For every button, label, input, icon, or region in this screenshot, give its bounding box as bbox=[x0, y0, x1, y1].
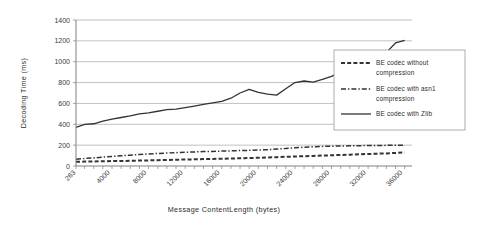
x-tick-label: 263 bbox=[63, 169, 76, 182]
x-tick-label: 36000 bbox=[385, 169, 404, 188]
series-line-2 bbox=[76, 145, 405, 159]
x-tick-label: 32000 bbox=[348, 169, 367, 188]
x-tick-label: 24000 bbox=[275, 169, 294, 188]
legend-label-1: BE codec without bbox=[376, 59, 429, 66]
y-tick-label: 1000 bbox=[54, 58, 70, 65]
y-axis-tick-labels: 0200400600800100012001400 bbox=[54, 17, 70, 170]
x-tick-label: 28000 bbox=[312, 169, 331, 188]
y-tick-label: 0 bbox=[66, 163, 70, 170]
y-tick-label: 1200 bbox=[54, 37, 70, 44]
x-axis-title: Message ContentLength (bytes) bbox=[168, 205, 280, 214]
chart-legend: BE codec withoutcompressionBE codec with… bbox=[334, 50, 465, 130]
series-line-1 bbox=[76, 152, 405, 161]
y-axis-title: Decoding Time (ms) bbox=[19, 58, 28, 129]
legend-label-3: BE codec with Zlib bbox=[376, 110, 432, 117]
line-chart: 0200400600800100012001400 26340008000120… bbox=[0, 0, 486, 227]
x-tick-label: 20000 bbox=[239, 169, 258, 188]
x-tick-label: 16000 bbox=[202, 169, 221, 188]
y-tick-label: 1400 bbox=[54, 17, 70, 24]
y-tick-label: 400 bbox=[58, 121, 70, 128]
y-tick-label: 200 bbox=[58, 142, 70, 149]
x-axis-tick-labels: 2634000800012000160002000024000280003200… bbox=[63, 169, 403, 188]
y-tick-label: 800 bbox=[58, 79, 70, 86]
legend-label-1-line2: compression bbox=[376, 69, 415, 77]
chart-figure: 0200400600800100012001400 26340008000120… bbox=[0, 0, 486, 227]
x-tick-label: 12000 bbox=[165, 169, 184, 188]
legend-label-2-line2: compression bbox=[376, 95, 415, 103]
legend-label-2: BE codec with asn1 bbox=[376, 85, 436, 92]
x-tick-label: 4000 bbox=[95, 169, 111, 185]
y-tick-label: 600 bbox=[58, 100, 70, 107]
x-tick-label: 8000 bbox=[132, 169, 148, 185]
